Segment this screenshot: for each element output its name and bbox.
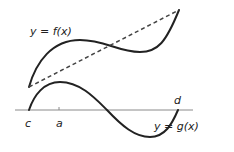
diagram-canvas: y = f(x) y = g(x) c a d <box>0 0 234 152</box>
f-curve-label: y = f(x) <box>29 25 72 38</box>
point-a-label: a <box>56 117 63 130</box>
point-d-label: d <box>174 94 182 107</box>
g-curve-label: y = g(x) <box>153 120 199 133</box>
point-c-label: c <box>25 117 31 130</box>
